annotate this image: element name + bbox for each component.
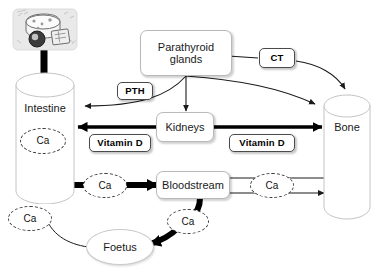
ca-node-excreted[interactable]: Ca (8, 206, 52, 231)
arrow-parathyroid-to-bone (186, 76, 315, 104)
node-kidneys-label: Kidneys (165, 121, 204, 133)
node-foetus[interactable]: Foetus (86, 229, 154, 265)
node-kidneys[interactable]: Kidneys (156, 112, 214, 142)
diagram-canvas: Intestine Ca Bone Parathyroid glands Kid… (0, 0, 373, 272)
dietary-calcium-foods-image (12, 6, 80, 52)
line-parathyroid-to-ct (228, 56, 258, 58)
ca-node-excreted-label: Ca (24, 213, 37, 224)
ca-node-foetal-label: Ca (182, 216, 195, 227)
ca-node-intestine[interactable]: Ca (20, 128, 66, 154)
tag-pth[interactable]: PTH (117, 82, 153, 100)
node-bloodstream-label: Bloodstream (162, 179, 224, 191)
ca-node-bone-exchange[interactable]: Ca (250, 173, 294, 198)
node-bloodstream[interactable]: Bloodstream (156, 171, 230, 199)
node-parathyroid-glands-label: Parathyroid glands (141, 41, 231, 66)
tag-pth-label: PTH (125, 86, 145, 97)
tag-ct-label: CT (270, 53, 283, 64)
node-parathyroid-glands[interactable]: Parathyroid glands (140, 30, 232, 76)
tag-vitamin-d-right[interactable]: Vitamin D (229, 134, 295, 152)
node-foetus-label: Foetus (103, 241, 137, 253)
tag-vitamin-d-left[interactable]: Vitamin D (89, 134, 151, 152)
ca-node-intestine-label: Ca (37, 135, 50, 146)
tag-vitamin-d-left-label: Vitamin D (97, 138, 142, 149)
ca-node-foetal[interactable]: Ca (167, 209, 209, 234)
ca-node-absorbed-label: Ca (99, 180, 112, 191)
arrow-ct-to-bone (296, 61, 345, 89)
ca-node-absorbed[interactable]: Ca (83, 173, 127, 198)
tag-ct[interactable]: CT (259, 48, 295, 68)
ca-node-bone-exchange-label: Ca (266, 180, 279, 191)
tag-vitamin-d-right-label: Vitamin D (239, 138, 284, 149)
node-bone[interactable]: Bone (322, 94, 372, 220)
